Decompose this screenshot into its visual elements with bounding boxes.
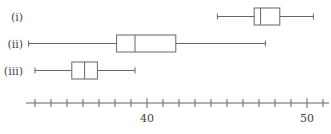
row-label: (ii)	[7, 38, 23, 51]
box-plot-3: (iii)	[4, 62, 135, 79]
box-plot-1: (i)	[11, 8, 314, 25]
row-label: (iii)	[4, 65, 23, 78]
box-plot-rows: (i)(ii)(iii)	[4, 8, 314, 79]
x-axis: 4050	[26, 98, 329, 125]
iqr-box	[117, 35, 176, 52]
iqr-box	[254, 8, 280, 25]
tick-label: 40	[140, 112, 154, 125]
row-label: (i)	[11, 11, 23, 24]
box-plot-2: (ii)	[7, 35, 265, 52]
box-plot-chart: (i)(ii)(iii) 4050	[0, 0, 331, 134]
tick-label: 50	[300, 112, 314, 125]
